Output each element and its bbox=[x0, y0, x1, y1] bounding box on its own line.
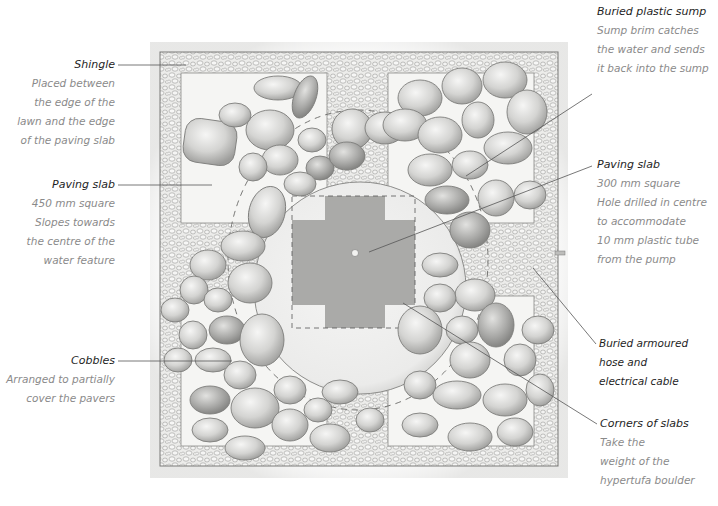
label-line: 300 mm square bbox=[597, 174, 717, 193]
label-line: Hole drilled in centre bbox=[597, 193, 717, 212]
label-line: hose and bbox=[599, 353, 717, 372]
label-line: the edge of the bbox=[4, 93, 115, 112]
label-line: the centre of the bbox=[4, 232, 115, 251]
label-buried-hose: Buried armoured hose and electrical cabl… bbox=[599, 334, 717, 391]
label-line: electrical cable bbox=[599, 372, 717, 391]
label-line: water feature bbox=[4, 251, 115, 270]
label-paving-slab-300-title: Paving slab bbox=[597, 155, 717, 174]
label-paving-slab-450-title: Paving slab bbox=[4, 175, 115, 194]
label-line: the water and sends bbox=[597, 40, 717, 59]
label-shingle-title: Shingle bbox=[4, 55, 115, 74]
label-cobbles-title: Cobbles bbox=[4, 351, 115, 370]
label-shingle: Shingle Placed between the edge of the l… bbox=[4, 55, 115, 150]
water-feature-diagram: Shingle Placed between the edge of the l… bbox=[0, 0, 718, 506]
label-line: hypertufa boulder bbox=[600, 471, 718, 490]
label-line: it back into the sump bbox=[597, 59, 717, 78]
label-line: to accommodate bbox=[597, 212, 717, 231]
label-line: Arranged to partially bbox=[4, 370, 115, 389]
label-buried-sump: Buried plastic sump Sump brim catches th… bbox=[597, 2, 717, 78]
hose-stub bbox=[555, 251, 565, 255]
label-line: lawn and the edge bbox=[4, 112, 115, 131]
label-cobbles: Cobbles Arranged to partially cover the … bbox=[4, 351, 115, 408]
drill-hole bbox=[352, 250, 359, 257]
label-line: Take the bbox=[600, 433, 718, 452]
label-paving-slab-300: Paving slab 300 mm square Hole drilled i… bbox=[597, 155, 717, 269]
label-line: weight of the bbox=[600, 452, 718, 471]
label-line: Slopes towards bbox=[4, 213, 115, 232]
label-line: 450 mm square bbox=[4, 194, 115, 213]
label-line: Sump brim catches bbox=[597, 21, 717, 40]
label-line: Placed between bbox=[4, 74, 115, 93]
label-line: 10 mm plastic tube bbox=[597, 231, 717, 250]
label-line: from the pump bbox=[597, 250, 717, 269]
label-corners-of-slabs: Corners of slabs Take the weight of the … bbox=[600, 414, 718, 490]
label-line: cover the pavers bbox=[4, 389, 115, 408]
label-line: Buried armoured bbox=[599, 334, 717, 353]
label-paving-slab-450: Paving slab 450 mm square Slopes towards… bbox=[4, 175, 115, 270]
label-line: of the paving slab bbox=[4, 131, 115, 150]
label-corners-of-slabs-title: Corners of slabs bbox=[600, 414, 718, 433]
label-buried-sump-title: Buried plastic sump bbox=[597, 2, 717, 21]
